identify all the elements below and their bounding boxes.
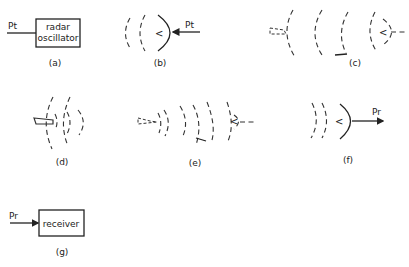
reflected-wave-arc [78, 110, 83, 135]
aircraft-icon [270, 28, 286, 34]
signal-label: Pr [372, 107, 381, 117]
reflected-wave-arc [180, 106, 186, 138]
antenna-symbol: < [155, 28, 163, 39]
panel-e: < (e) [138, 102, 254, 168]
antenna-symbol: < [230, 116, 238, 127]
wave-arc [46, 97, 53, 149]
caption: (e) [189, 158, 202, 168]
aircraft-icon [138, 118, 157, 124]
wave-arc [370, 12, 377, 52]
panel-f: < Pr (f) [311, 103, 383, 165]
reflected-wave-arc [67, 112, 70, 134]
caption: (d) [56, 157, 69, 167]
caption: (b) [154, 58, 167, 68]
wave-arc [341, 12, 348, 53]
panel-b: < Pt (b) [126, 15, 201, 68]
aircraft-icon [34, 118, 53, 124]
box-line1: radar [46, 22, 70, 32]
wave-arc [322, 103, 327, 138]
box-label: receiver [43, 219, 80, 229]
caption: (a) [49, 58, 62, 68]
signal-label: Pr [9, 211, 18, 221]
wave-arc [287, 10, 295, 57]
caption: (g) [56, 247, 69, 257]
panel-a: Pt radar oscillator (a) [7, 19, 80, 68]
panel-c: < (c) [270, 10, 405, 68]
wave-arc [311, 103, 316, 138]
wave-arc [140, 15, 145, 51]
wave-arc [63, 97, 70, 146]
signal-label: Pt [8, 21, 17, 31]
wave-marker [335, 54, 347, 55]
panel-d: (d) [34, 97, 83, 167]
panel-g: Pr receiver (g) [9, 210, 84, 257]
wave-arc [315, 10, 322, 55]
reflected-wave-arc [207, 102, 213, 140]
radar-sequence-diagram: Pt radar oscillator (a) < Pt (b) < (c) [0, 0, 409, 267]
reflected-wave-arc [55, 114, 57, 130]
reflected-wave-arc [158, 113, 161, 133]
wave-arc [126, 18, 131, 48]
box-line2: oscillator [38, 33, 79, 43]
reflected-wave-arc [164, 110, 168, 136]
caption: (f) [343, 155, 353, 165]
antenna-symbol: < [335, 116, 343, 127]
caption: (c) [349, 58, 361, 68]
antenna-symbol: < [379, 27, 387, 38]
signal-label: Pt [185, 20, 194, 30]
